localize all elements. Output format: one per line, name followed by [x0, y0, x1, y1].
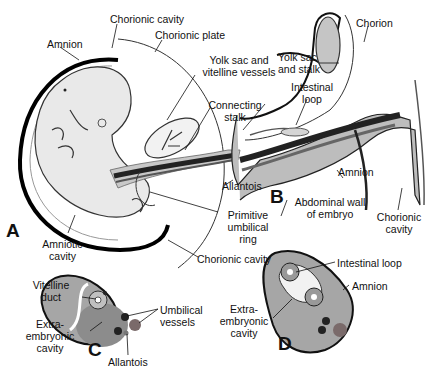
- label-extra-D-line2: embryonic: [214, 315, 274, 327]
- label-amnion-B: Amnion: [338, 166, 374, 178]
- label-amnion-D: Amnion: [352, 280, 388, 292]
- label-chorionic-cavity-top: Chorionic cavity: [110, 13, 184, 25]
- label-amniotic-line2: cavity: [35, 250, 90, 262]
- label-extra-D-line1: Extra-: [214, 303, 274, 315]
- label-umbilical-line2: vessels: [160, 316, 203, 328]
- label-extraembryonic-cavity-D: Extra- embryonic cavity: [214, 303, 274, 339]
- label-chorionic-cavity-bottom: Chorionic cavity: [197, 253, 271, 265]
- embryo-umbilical-cord-diagram: Chorionic cavity Chorionic plate Amnion …: [0, 0, 438, 375]
- label-extra-C-line1: Extra-: [20, 318, 80, 330]
- label-abdominal-line1: Abdominal wall: [288, 196, 372, 208]
- label-chorionic-B-line2: cavity: [371, 223, 427, 235]
- label-yolk-sac-stalk: Yolk sac and stalk: [278, 51, 320, 75]
- label-primitive-line3: ring: [217, 233, 279, 245]
- embryo-body: [35, 67, 149, 217]
- label-yolk-stalk-line2: and stalk: [278, 63, 320, 75]
- panel-label-B: B: [270, 187, 284, 206]
- label-vitelline-line2: duct: [26, 291, 76, 303]
- label-allantois-C: Allantois: [108, 356, 148, 368]
- label-abdominal-wall: Abdominal wall of embryo: [288, 196, 372, 220]
- label-intestinal-loop-B: Intestinal loop: [287, 81, 337, 105]
- label-chorionic-B-line1: Chorionic: [371, 211, 427, 223]
- label-chorionic-plate: Chorionic plate: [155, 29, 225, 41]
- label-yolk-stalk-line1: Yolk sac: [278, 51, 320, 63]
- label-intestinal-line2: loop: [287, 93, 337, 105]
- label-umbilical-vessels: Umbilical vessels: [160, 304, 203, 328]
- panel-label-A: A: [6, 221, 20, 240]
- label-amniotic-line1: Amniotic: [35, 238, 90, 250]
- label-primitive-line2: umbilical: [217, 221, 279, 233]
- label-primitive-line1: Primitive: [217, 209, 279, 221]
- panel-label-D: D: [278, 334, 292, 353]
- label-vitelline-line1: Vitelline: [26, 279, 76, 291]
- label-connecting-stalk: Connecting stalk: [202, 99, 268, 123]
- label-chorionic-cavity-B: Chorionic cavity: [371, 211, 427, 235]
- label-connecting-line1: Connecting: [202, 99, 268, 111]
- label-vitelline-duct: Vitelline duct: [26, 279, 76, 303]
- label-allantois-A: Allantois: [222, 180, 262, 192]
- label-extra-C-line3: cavity: [20, 342, 80, 354]
- label-extraembryonic-cavity-C: Extra- embryonic cavity: [20, 318, 80, 354]
- panel-label-C: C: [88, 340, 102, 359]
- label-intestinal-line1: Intestinal: [287, 81, 337, 93]
- label-primitive-umbilical-ring: Primitive umbilical ring: [217, 209, 279, 245]
- label-extra-D-line3: cavity: [214, 327, 274, 339]
- label-connecting-line2: stalk: [202, 111, 268, 123]
- label-chorion: Chorion: [356, 17, 393, 29]
- label-amniotic-cavity: Amniotic cavity: [35, 238, 90, 262]
- label-extra-C-line2: embryonic: [20, 330, 80, 342]
- label-umbilical-line1: Umbilical: [160, 304, 203, 316]
- label-abdominal-line2: of embryo: [288, 208, 372, 220]
- label-amnion-A: Amnion: [47, 38, 83, 50]
- label-intestinal-loop-D: Intestinal loop: [337, 257, 402, 269]
